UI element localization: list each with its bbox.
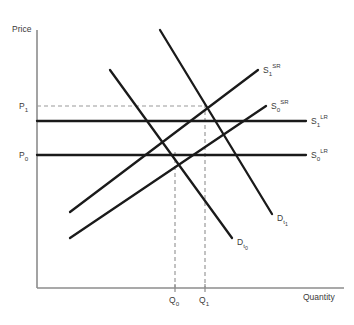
x-tick-label-q1-sub: 1 [206,300,210,307]
curve-label-demand-t1-subsub: 1 [285,221,288,227]
x-tick-label-q0-sub: 0 [176,300,180,307]
curve-label-supply-sr-1: S1SR [263,63,281,77]
curve-label-supply-lr-1-sub: 1 [317,121,321,128]
curve-label-demand-t0-subsub: 0 [245,245,248,251]
curve-label-supply-lr-1-sup: LR [320,114,328,120]
curve-label-supply-lr-0-sup: LR [320,148,328,154]
curve-label-supply-lr-0: S0LR [311,148,328,162]
y-tick-label-p0: P0 [19,150,29,162]
economics-supply-demand-diagram: Price Quantity P1 P0 Q0 Q1 S1SR S0SR S1L… [0,0,354,325]
curve-supply-sr-1 [70,70,258,212]
curve-label-supply-sr-0-sub: 0 [277,106,281,113]
curve-label-demand-t0: Dt0 [237,237,248,251]
x-axis-label: Quantity [303,292,335,302]
curve-label-supply-sr-1-sub: 1 [269,70,273,77]
y-tick-label-p0-sub: 0 [25,155,29,162]
chart-canvas: Price Quantity P1 P0 Q0 Q1 S1SR S0SR S1L… [0,0,354,325]
curve-supply-sr-0 [70,106,266,238]
curve-label-supply-lr-0-sub: 0 [317,155,321,162]
y-tick-label-p1: P1 [19,101,29,113]
curve-label-demand-t1: Dt1 [277,213,288,227]
x-tick-label-q0: Q0 [169,295,180,307]
curve-label-supply-sr-1-sup: SR [272,63,281,69]
curve-label-supply-lr-1: S1LR [311,114,328,128]
x-tick-label-q1: Q1 [199,295,210,307]
curve-label-supply-sr-0: S0SR [271,99,289,113]
y-axis-label: Price [12,24,32,34]
curve-label-supply-sr-0-sup: SR [280,99,289,105]
y-tick-label-p1-sub: 1 [25,106,29,113]
